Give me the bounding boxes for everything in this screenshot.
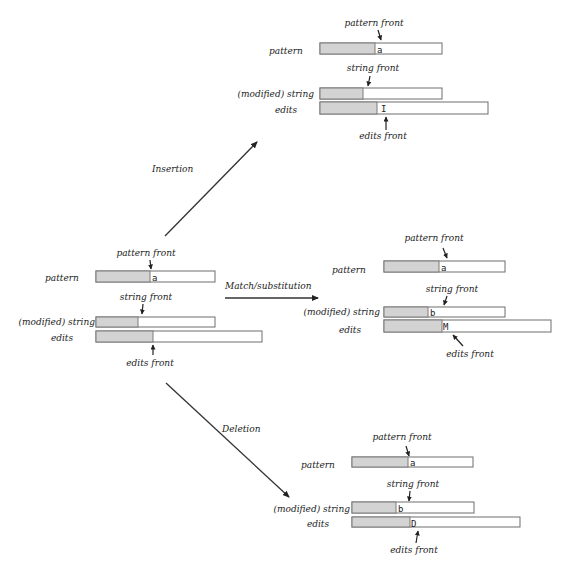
insertion-arrow-icon xyxy=(165,142,257,236)
edits-bar xyxy=(96,331,262,342)
pattern-front-arrow-icon xyxy=(150,260,151,269)
pattern-char: a xyxy=(152,273,157,283)
state-initial: pattern front pattern a string front (mo… xyxy=(18,248,262,368)
state-insertion: pattern front pattern a string front (mo… xyxy=(237,18,488,141)
pattern-front-label: pattern front xyxy=(116,248,175,258)
string-front-arrow-icon xyxy=(409,491,410,501)
pattern-label: pattern xyxy=(269,46,303,56)
string-front-arrow-icon xyxy=(142,304,143,314)
string-front-arrow-icon xyxy=(444,296,447,305)
state-match: pattern front pattern a string front (mo… xyxy=(303,233,551,359)
edits-label: edits xyxy=(339,325,362,335)
pattern-front-arrow-icon xyxy=(443,248,447,258)
pattern-front-arrow-icon xyxy=(406,446,409,456)
pattern-front-arrow-icon xyxy=(378,30,381,40)
edits-bar xyxy=(320,102,488,114)
string-label: (modified) string xyxy=(273,504,350,514)
string-bar xyxy=(384,307,505,317)
string-bar xyxy=(96,317,215,327)
string-label: (modified) string xyxy=(237,89,314,99)
pattern-label: pattern xyxy=(45,273,79,283)
edits-front-label: edits front xyxy=(126,358,174,368)
string-front-label: string front xyxy=(426,284,479,294)
pattern-label: pattern xyxy=(332,265,366,275)
string-front-label: string front xyxy=(387,479,440,489)
string-bar xyxy=(352,502,474,513)
edits-front-label: edits front xyxy=(446,349,494,359)
edits-front-arrow-icon xyxy=(416,531,418,543)
string-bar xyxy=(320,88,442,99)
operation-deletion: Deletion xyxy=(166,383,289,497)
edits-label: edits xyxy=(307,519,330,529)
operation-match: Match/substitution xyxy=(224,281,318,298)
string-char: b xyxy=(398,504,403,514)
pattern-front-label: pattern front xyxy=(344,18,403,28)
pattern-char: a xyxy=(441,263,446,273)
edits-char: M xyxy=(443,322,449,332)
pattern-char: a xyxy=(377,45,382,55)
state-deletion: pattern front pattern a string front (mo… xyxy=(273,432,520,555)
string-front-arrow-icon xyxy=(368,76,370,86)
edits-bar xyxy=(384,320,551,332)
edits-char: I xyxy=(381,104,386,114)
string-label: (modified) string xyxy=(18,317,95,327)
edit-distance-diagram: pattern front pattern a string front (mo… xyxy=(0,0,568,570)
edits-front-arrow-icon xyxy=(453,335,463,346)
edits-front-label: edits front xyxy=(390,545,438,555)
pattern-front-label: pattern front xyxy=(404,233,463,243)
insertion-label: Insertion xyxy=(151,164,194,174)
match-label: Match/substitution xyxy=(224,281,312,291)
string-label: (modified) string xyxy=(303,307,380,317)
string-front-label: string front xyxy=(120,292,173,302)
deletion-label: Deletion xyxy=(221,424,261,434)
string-char: b xyxy=(430,308,435,318)
string-front-label: string front xyxy=(347,63,400,73)
pattern-front-label: pattern front xyxy=(372,432,431,442)
edits-label: edits xyxy=(51,333,74,343)
deletion-arrow-icon xyxy=(166,383,289,497)
edits-front-label: edits front xyxy=(359,131,407,141)
pattern-label: pattern xyxy=(301,460,335,470)
edits-char: D xyxy=(411,519,416,529)
pattern-char: a xyxy=(410,458,415,468)
edits-label: edits xyxy=(275,105,298,115)
operation-insertion: Insertion xyxy=(151,142,257,236)
edits-bar xyxy=(352,517,520,527)
